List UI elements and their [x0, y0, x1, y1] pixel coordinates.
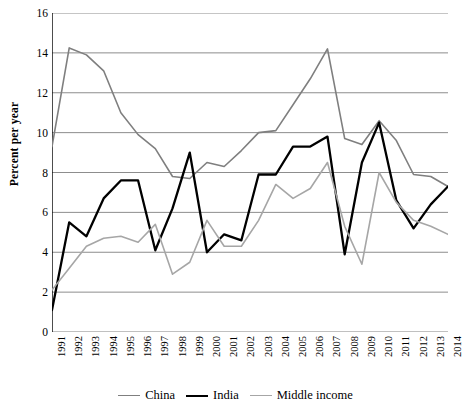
plot-svg	[52, 13, 448, 332]
x-tick-label: 1993	[90, 336, 101, 357]
legend-item-china[interactable]: China	[118, 388, 175, 403]
x-tick-label: 2001	[228, 336, 239, 357]
x-tick-label: 2000	[211, 336, 222, 357]
x-tick-label: 2010	[383, 336, 394, 357]
x-tick-label: 1999	[194, 336, 205, 357]
legend-swatch-icon	[118, 395, 140, 396]
x-axis-tick-labels: 1991199219931994199519961997199819992000…	[0, 336, 471, 384]
x-tick-label: 2014	[452, 336, 463, 357]
y-axis-tick-labels: 0246810121416	[20, 0, 48, 340]
y-tick-label: 12	[22, 88, 48, 98]
legend-swatch-icon	[186, 395, 208, 397]
x-tick-label: 1997	[159, 336, 170, 357]
x-tick-label: 1996	[142, 336, 153, 357]
y-axis-title: Percent per year	[8, 84, 20, 204]
legend-label: Middle income	[277, 388, 353, 403]
series-line-middle-income	[52, 163, 448, 291]
x-tick-label: 2009	[366, 336, 377, 357]
y-tick-label: 2	[22, 287, 48, 297]
y-tick-label: 16	[22, 8, 48, 18]
x-tick-label: 2012	[418, 336, 429, 357]
x-tick-label: 2008	[349, 336, 360, 357]
x-tick-label: 2007	[331, 336, 342, 357]
chart-legend: ChinaIndiaMiddle income	[0, 388, 471, 403]
series-line-india	[52, 123, 448, 310]
x-tick-label: 2006	[314, 336, 325, 357]
legend-label: China	[145, 388, 175, 403]
x-tick-label: 2002	[245, 336, 256, 357]
y-tick-label: 6	[22, 207, 48, 217]
x-tick-label: 2005	[297, 336, 308, 357]
legend-swatch-icon	[250, 395, 272, 396]
y-tick-label: 4	[22, 247, 48, 257]
x-tick-label: 2013	[435, 336, 446, 357]
x-tick-label: 1995	[125, 336, 136, 357]
x-tick-label: 2011	[400, 336, 411, 357]
y-tick-label: 14	[22, 48, 48, 58]
line-chart: Percent per year 0246810121416 199119921…	[0, 0, 471, 413]
x-tick-label: 2003	[263, 336, 274, 357]
y-tick-label: 10	[22, 128, 48, 138]
legend-label: India	[213, 388, 239, 403]
x-tick-label: 1998	[177, 336, 188, 357]
x-tick-label: 1994	[108, 336, 119, 357]
legend-item-middle-income[interactable]: Middle income	[250, 388, 353, 403]
x-tick-label: 1992	[73, 336, 84, 357]
plot-area	[52, 13, 448, 332]
y-tick-label: 8	[22, 168, 48, 178]
x-tick-label: 1991	[56, 336, 67, 357]
x-tick-label: 2004	[280, 336, 291, 357]
legend-item-india[interactable]: India	[186, 388, 239, 403]
